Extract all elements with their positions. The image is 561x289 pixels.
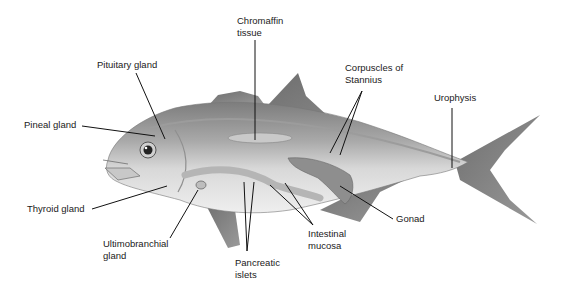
label-thyroid-gland: Thyroid gland	[27, 203, 85, 215]
label-chromaffin-tissue: Chromaffin tissue	[237, 15, 283, 39]
fish-body	[106, 102, 468, 212]
label-pituitary-gland: Pituitary gland	[97, 59, 157, 71]
label-ultimobranchial-gland: Ultimobranchial gland	[103, 238, 168, 262]
label-gonad: Gonad	[396, 213, 425, 225]
label-pancreatic-islets: Pancreatic islets	[235, 257, 280, 281]
caudal-fin	[455, 115, 540, 224]
label-intestinal-mucosa: Intestinal mucosa	[308, 228, 346, 252]
label-pineal-gland: Pineal gland	[24, 119, 76, 131]
label-corpuscles-of-stannius: Corpuscles of Stannius	[345, 62, 403, 86]
fish-illustration	[0, 0, 561, 289]
chromaffin-organ	[228, 133, 292, 143]
ultimobranchial-organ	[196, 181, 206, 189]
label-urophysis: Urophysis	[434, 92, 476, 104]
fish-endocrine-diagram: Chromaffin tissue Pituitary gland Corpus…	[0, 0, 561, 289]
